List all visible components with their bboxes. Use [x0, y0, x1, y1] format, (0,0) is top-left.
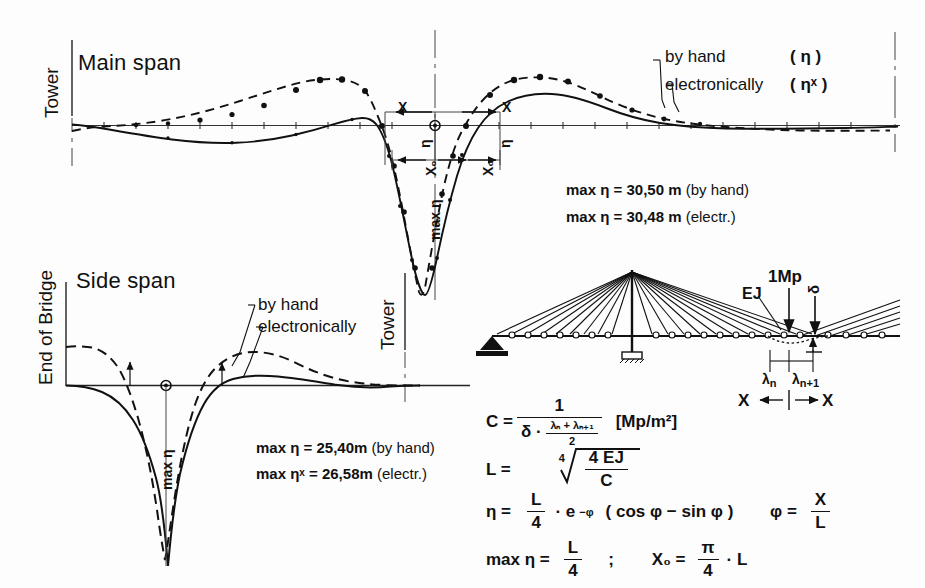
- formula-x0-lhs: X₀ =: [652, 550, 686, 570]
- bridge-lambda-dimensions: [770, 350, 813, 372]
- main-span-title: Main span: [78, 52, 181, 74]
- dim-x-right: X: [502, 100, 511, 114]
- side-span-end-of-bridge-label: End of Bridge: [36, 270, 55, 385]
- main-span-result-electr-note: (electr.): [686, 208, 736, 225]
- side-span-hump-arrows: [130, 362, 222, 386]
- formula-c-den-prefix: δ ·: [521, 422, 542, 441]
- formula-c-numerator: 1: [517, 396, 602, 418]
- main-span-result-hand-text: max η = 30,50 m: [566, 181, 682, 198]
- formula-l-radicand-num: 4 EJ: [585, 448, 628, 470]
- formula-x0-fraction: π 4: [698, 538, 719, 581]
- side-span-result-electr: max ηˣ = 26,58m (electr.): [256, 466, 427, 481]
- main-span-curve-electronically: [72, 94, 898, 295]
- main-span-result-hand: max η = 30,50 m (by hand): [566, 182, 749, 197]
- formula-c: C = 1 δ · λₙ + λₙ₊₁ 2 [Mp/m²]: [486, 396, 677, 447]
- formula-l-root-index: 4: [559, 452, 565, 464]
- formula-c-inner-num: λₙ + λₙ₊₁: [546, 419, 597, 434]
- formula-phi-num: X: [811, 490, 830, 512]
- legend-main-electronically-label: electronically: [665, 76, 763, 93]
- legend-main-by-hand-symbol: ( η ): [790, 48, 821, 65]
- bridge-stay-cables-left: [497, 272, 632, 334]
- bridge-abutment-base: [476, 351, 508, 356]
- dim-x-left: X: [398, 100, 407, 114]
- main-span-tower-label: Tower: [42, 67, 61, 118]
- figure-canvas: Main span Tower by hand ( η ) electronic…: [0, 0, 925, 588]
- formula-l: L = 4 4 EJ C: [486, 448, 628, 491]
- bridge-ej-label: EJ: [742, 286, 762, 302]
- formula-l-lhs: L =: [486, 460, 511, 480]
- dim-eta-left: η: [418, 139, 432, 148]
- legend-main-by-hand-label: by hand: [665, 48, 726, 65]
- formula-c-lhs: C =: [486, 412, 513, 432]
- side-span-title: Side span: [76, 270, 176, 292]
- dim-side-max-eta: max η: [160, 450, 174, 490]
- bridge-lambda-n1-label: λn+1: [792, 372, 819, 389]
- dim-eta-right: η: [498, 139, 512, 148]
- side-span-result-electr-note: (electr.): [377, 465, 427, 482]
- side-span-legend-leaders: [232, 305, 263, 378]
- lambda-n1-subscript: n+1: [800, 377, 819, 389]
- main-span-curve-by-hand: [72, 77, 890, 294]
- side-span-result-hand-note: (by hand): [372, 439, 435, 456]
- formula-max-lhs: max η =: [486, 550, 550, 570]
- legend-side-electronically-label: electronically: [258, 318, 356, 335]
- formula-c-fraction: 1 δ · λₙ + λₙ₊₁ 2: [517, 396, 602, 447]
- formula-max-fraction: L 4: [564, 538, 582, 581]
- bridge-lambda-n-label: λn: [762, 372, 777, 389]
- formula-eta: η = L 4 · e −φ ( cos φ − sin φ ): [486, 490, 733, 533]
- bridge-delta-label: δ: [806, 285, 821, 294]
- dim-x0-left: X₀: [424, 160, 438, 176]
- formula-phi-fraction: X L: [811, 490, 830, 533]
- main-span-points-by-hand: [134, 74, 702, 271]
- bridge-x-axis-notation: [760, 390, 818, 410]
- formula-max-separator: ;: [608, 550, 614, 570]
- formula-max-eta: max η = L 4 ; X₀ = π 4 · L: [486, 538, 747, 581]
- main-span-result-electr-text: max η = 30,48 m: [566, 208, 682, 225]
- bridge-x-axis-right-label: X: [822, 392, 833, 409]
- main-span-result-electr: max η = 30,48 m (electr.): [566, 209, 736, 224]
- dim-x0-right: X₀: [481, 160, 495, 176]
- formula-l-radicand-den: C: [585, 470, 628, 491]
- formula-max-num: L: [564, 538, 582, 560]
- side-span-result-electr-text: max ηˣ = 26,58m: [256, 465, 373, 482]
- formula-eta-num: L: [527, 490, 545, 512]
- side-span-tower-label: Tower: [378, 299, 397, 350]
- dim-main-max-eta: max η: [428, 200, 442, 240]
- formula-x0-num: π: [698, 538, 719, 560]
- formula-eta-den: 4: [527, 512, 545, 533]
- formula-c-denominator: δ · λₙ + λₙ₊₁ 2: [517, 418, 602, 447]
- lambda-n1-symbol: λ: [792, 371, 800, 387]
- formula-eta-lhs: η =: [486, 502, 511, 522]
- bridge-abutment: [480, 336, 504, 350]
- formula-eta-mid: · e: [555, 502, 575, 522]
- side-span-result-hand-text: max η = 25,40m: [256, 439, 367, 456]
- legend-side-by-hand-label: by hand: [258, 296, 319, 313]
- formula-phi: φ = X L: [770, 490, 830, 533]
- legend-main-electronically-symbol: ( ηˣ ): [790, 76, 827, 93]
- bridge-sketch: [476, 270, 900, 410]
- formula-eta-fraction: L 4: [527, 490, 545, 533]
- formula-c-inner-den: 2: [546, 434, 597, 447]
- lambda-n-symbol: λ: [762, 371, 770, 387]
- formula-x0-tail: · L: [727, 550, 748, 570]
- formula-c-inner-fraction: λₙ + λₙ₊₁ 2: [546, 419, 597, 447]
- formula-x0-den: 4: [698, 560, 719, 581]
- formula-eta-exponent: −φ: [579, 506, 593, 518]
- formula-phi-den: L: [811, 512, 830, 533]
- formula-max-den: 4: [564, 560, 582, 581]
- main-span-dimension-x: [385, 112, 500, 165]
- bridge-load-label: 1Mp: [768, 268, 802, 285]
- formula-c-units: [Mp/m²]: [616, 412, 677, 432]
- bridge-x-axis-left-label: X: [738, 392, 749, 409]
- formula-eta-trig: ( cos φ − sin φ ): [606, 502, 734, 522]
- formula-phi-lhs: φ =: [770, 502, 797, 522]
- main-span-result-hand-note: (by hand): [686, 181, 749, 198]
- formula-l-radicand: 4 EJ C: [585, 448, 628, 491]
- pylon-support: [622, 352, 642, 359]
- lambda-n-subscript: n: [770, 377, 777, 389]
- side-span-result-hand: max η = 25,40m (by hand): [256, 440, 435, 455]
